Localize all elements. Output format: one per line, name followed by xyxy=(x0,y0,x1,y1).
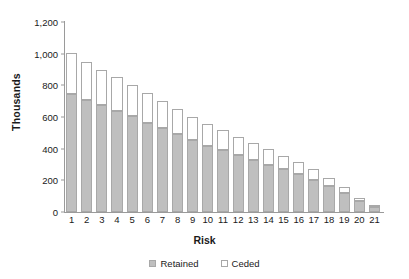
x-axis-tick-label: 17 xyxy=(309,214,320,225)
y-axis-tick-mark xyxy=(61,22,64,23)
x-axis-tick-label: 15 xyxy=(278,214,289,225)
x-axis-tick-label: 2 xyxy=(84,214,89,225)
x-axis-tick-label: 4 xyxy=(114,214,119,225)
x-axis-tick-label: 5 xyxy=(129,214,134,225)
bar-stack xyxy=(172,109,183,212)
legend-item-ceded: Ceded xyxy=(221,258,260,269)
bar-segment-retained xyxy=(96,105,107,212)
bar-segment-retained xyxy=(369,207,380,212)
x-axis-tick-label: 1 xyxy=(69,214,74,225)
bar-stack xyxy=(233,137,244,212)
y-axis-tick-mark xyxy=(61,148,64,149)
bar-stack xyxy=(96,70,107,213)
x-axis-tick-label: 6 xyxy=(145,214,150,225)
bar-segment-ceded xyxy=(157,101,168,128)
x-axis-tick-label: 12 xyxy=(233,214,244,225)
bar-stack xyxy=(127,85,138,212)
bar-segment-ceded xyxy=(127,85,138,117)
bar-segment-ceded xyxy=(217,130,228,150)
bar-stack xyxy=(111,77,122,212)
bar-stack xyxy=(263,149,274,212)
bar-segment-retained xyxy=(157,128,168,212)
legend-label-retained: Retained xyxy=(160,258,198,269)
stacked-bar-chart: Thousands 02004006008001,0001,200 Risk R… xyxy=(0,0,409,279)
bar-segment-retained xyxy=(293,174,304,212)
bar-segment-retained xyxy=(187,140,198,212)
y-axis-tick-label: 1,200 xyxy=(34,17,64,28)
x-axis-tick-label: 10 xyxy=(203,214,214,225)
bar-stack xyxy=(248,143,259,212)
bar-segment-retained xyxy=(142,123,153,212)
bar-segment-retained xyxy=(111,111,122,212)
x-axis-tick-label: 19 xyxy=(339,214,350,225)
bar-stack xyxy=(293,162,304,212)
bar-segment-ceded xyxy=(96,70,107,106)
bar-segment-ceded xyxy=(248,143,259,160)
bar-segment-retained xyxy=(233,155,244,212)
bar-segment-retained xyxy=(278,169,289,212)
bar-stack xyxy=(278,156,289,212)
bar-stack xyxy=(187,117,198,212)
bar-segment-retained xyxy=(323,186,334,212)
bar-segment-ceded xyxy=(142,93,153,122)
x-axis-title: Risk xyxy=(0,234,409,246)
bar-stack xyxy=(339,187,350,212)
x-axis-tick-label: 3 xyxy=(99,214,104,225)
bar-segment-ceded xyxy=(187,117,198,140)
chart-legend: Retained Ceded xyxy=(0,258,409,269)
bar-segment-ceded xyxy=(293,162,304,174)
bar-segment-ceded xyxy=(233,137,244,155)
bar-segment-ceded xyxy=(202,124,213,145)
bar-segment-retained xyxy=(354,201,365,212)
bar-segment-retained xyxy=(308,180,319,212)
x-axis-tick-label: 16 xyxy=(293,214,304,225)
x-axis-tick-label: 8 xyxy=(175,214,180,225)
legend-swatch-ceded-icon xyxy=(221,260,228,267)
y-axis-tick-mark xyxy=(61,117,64,118)
bar-stack xyxy=(369,206,380,212)
x-axis-tick-label: 9 xyxy=(190,214,195,225)
bar-stack xyxy=(354,198,365,212)
x-axis-line xyxy=(64,212,384,213)
y-axis-tick-mark xyxy=(61,53,64,54)
x-axis-tick-label: 20 xyxy=(354,214,365,225)
bar-segment-retained xyxy=(127,116,138,212)
bar-stack xyxy=(81,62,92,212)
bar-stack xyxy=(323,178,334,212)
bar-segment-ceded xyxy=(66,53,77,94)
bar-segment-ceded xyxy=(111,77,122,110)
bar-stack xyxy=(202,124,213,212)
bar-stack xyxy=(142,93,153,212)
y-axis-tick-mark xyxy=(61,180,64,181)
bar-segment-retained xyxy=(263,165,274,213)
legend-swatch-retained-icon xyxy=(149,260,156,267)
bar-segment-retained xyxy=(339,193,350,212)
bar-segment-retained xyxy=(202,146,213,213)
bar-stack xyxy=(157,101,168,212)
y-axis-tick-label: 1,000 xyxy=(34,48,64,59)
bar-segment-ceded xyxy=(172,109,183,134)
x-axis-tick-label: 7 xyxy=(160,214,165,225)
y-axis-tick-mark xyxy=(61,212,64,213)
x-axis-tick-label: 13 xyxy=(248,214,259,225)
bar-stack xyxy=(66,53,77,212)
bar-segment-retained xyxy=(81,100,92,212)
plot-area: 02004006008001,0001,200 xyxy=(64,22,382,212)
legend-label-ceded: Ceded xyxy=(232,258,260,269)
x-axis-tick-label: 11 xyxy=(218,214,228,225)
legend-item-retained: Retained xyxy=(149,258,198,269)
x-axis-tick-label: 21 xyxy=(369,214,380,225)
bar-segment-ceded xyxy=(323,178,334,186)
x-axis-tick-label: 18 xyxy=(324,214,335,225)
bar-stack xyxy=(217,130,228,212)
bar-segment-ceded xyxy=(263,149,274,164)
bar-segment-retained xyxy=(172,134,183,212)
bar-segment-retained xyxy=(66,94,77,212)
y-axis-tick-mark xyxy=(61,85,64,86)
bar-stack xyxy=(308,169,319,212)
bar-segment-retained xyxy=(248,160,259,212)
bar-segment-ceded xyxy=(278,156,289,169)
x-axis-tick-label: 14 xyxy=(263,214,274,225)
bar-segment-retained xyxy=(217,150,228,212)
bar-segment-ceded xyxy=(308,169,319,179)
